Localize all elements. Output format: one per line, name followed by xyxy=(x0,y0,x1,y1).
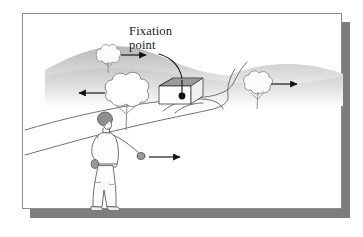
house-with-fixation-point xyxy=(159,78,203,104)
observer-shoe-front xyxy=(107,207,119,210)
observer-arm-back xyxy=(92,136,97,161)
figure-frame: Fixation point xyxy=(22,13,342,209)
scene-illustration xyxy=(23,14,343,210)
observer-hand-front xyxy=(137,152,145,159)
observer-shoe-back xyxy=(91,207,103,210)
fixation-label-line-1: Fixation xyxy=(129,25,172,38)
tree-canopy xyxy=(96,45,121,64)
fixation-point-dot xyxy=(179,93,186,100)
figure-root: Fixation point xyxy=(0,0,363,237)
walking-observer xyxy=(91,112,145,210)
fixation-label-line-2: point xyxy=(129,39,156,52)
house-front-wall xyxy=(159,86,191,104)
tree-trunk xyxy=(126,104,127,130)
observer-trouser-outline xyxy=(93,166,116,207)
